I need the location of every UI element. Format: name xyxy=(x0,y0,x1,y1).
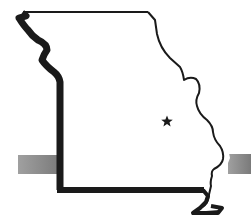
capital-star-icon xyxy=(161,116,173,127)
gray-band-right xyxy=(228,154,251,174)
gray-band-left xyxy=(18,155,60,174)
missouri-map xyxy=(0,0,251,224)
